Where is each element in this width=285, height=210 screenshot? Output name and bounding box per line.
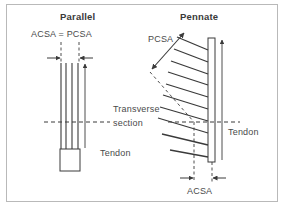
pennate-panel-title: Pennate — [180, 11, 218, 22]
pennate-tendon-box — [208, 38, 215, 162]
parallel-tendon-box — [60, 149, 80, 171]
parallel-fibers — [61, 63, 78, 152]
pennate-tendon-label: Tendon — [228, 127, 259, 137]
acsa-equals-pcsa-label: ACSA = PCSA — [31, 29, 92, 39]
pennate-muscle-group — [150, 33, 240, 182]
pennate-fibers — [158, 37, 208, 157]
pcsa-label: PCSA — [148, 34, 173, 44]
pennate-acsa-label: ACSA — [187, 186, 212, 196]
transverse-label-line2: section — [113, 118, 143, 128]
parallel-panel-title: Parallel — [60, 11, 95, 22]
parallel-tendon-label: Tendon — [100, 148, 131, 158]
pcsa-guide-line — [150, 72, 194, 122]
transverse-label-line1: Transverse — [113, 104, 160, 114]
